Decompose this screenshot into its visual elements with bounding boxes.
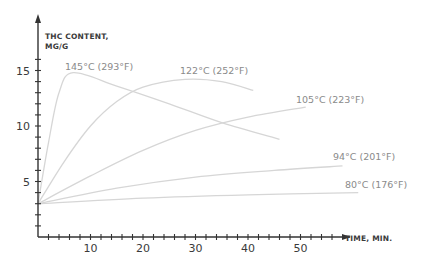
x-tick-label: 20 [136,242,150,255]
y-tick-label: 10 [16,120,30,133]
y-axis-arrow-icon [35,14,41,23]
data-curves [38,73,358,204]
x-tick-label: 10 [84,242,98,255]
x-tick-label: 40 [241,242,255,255]
series-label: 145°C (293°F) [65,61,133,72]
series-label: 94°C (201°F) [333,151,395,162]
y-tick-label: 5 [23,176,30,189]
y-axis-title: THC CONTENT, [45,32,108,41]
series-labels: 145°C (293°F)122°C (252°F)105°C (223°F)9… [65,61,407,190]
series-label: 122°C (252°F) [180,65,248,76]
x-tick-label: 30 [189,242,203,255]
y-axis-title: MG/G [45,42,68,51]
axes: 510151020304050THC CONTENT,MG/GTIME, MIN… [16,14,392,255]
y-tick-label: 15 [16,65,30,78]
series-label: 80°C (176°F) [345,179,407,190]
x-tick-label: 50 [294,242,308,255]
series-label: 105°C (223°F) [296,94,364,105]
chart: 145°C (293°F)122°C (252°F)105°C (223°F)9… [0,0,425,269]
x-axis-title: TIME, MIN. [345,234,392,243]
curve-line [38,79,253,204]
curve-line [38,166,343,204]
curve-line [38,107,306,204]
